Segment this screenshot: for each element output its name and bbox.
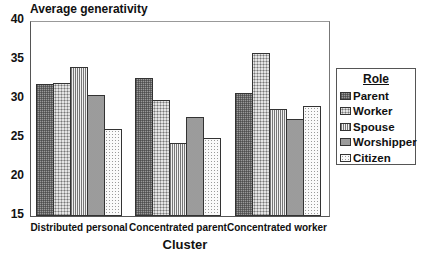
legend-label: Parent — [353, 90, 389, 102]
x-label-concentrated-parent: Concentrated parent — [123, 222, 233, 233]
legend-item-spouse: Spouse — [337, 119, 415, 135]
legend-item-worshipper: Worshipper — [337, 135, 415, 151]
bar-worshipper-concentrated-parent — [186, 117, 204, 216]
bar-citizen-concentrated-parent — [203, 138, 221, 216]
legend-label: Worshipper — [353, 136, 417, 148]
bar-worker-concentrated-parent — [152, 100, 170, 216]
spouse-swatch-icon — [340, 123, 351, 131]
y-tick-40: 40 — [0, 12, 24, 26]
y-tick-35: 35 — [0, 51, 24, 65]
worker-swatch-icon — [340, 107, 351, 115]
x-label-concentrated-worker: Concentrated worker — [222, 222, 332, 233]
chart-title: Average generativity — [30, 2, 148, 16]
citizen-swatch-icon — [340, 154, 351, 162]
legend-label: Spouse — [353, 121, 395, 133]
y-tick-25: 25 — [0, 129, 24, 143]
legend-item-citizen: Citizen — [337, 150, 415, 166]
legend-title: Role — [337, 72, 415, 88]
worshipper-swatch-icon — [340, 138, 351, 146]
legend-label: Citizen — [353, 152, 391, 164]
bar-parent-concentrated-worker — [235, 93, 253, 216]
x-label-distributed-personal: Distributed personal — [24, 222, 134, 233]
legend: Role Parent Worker Spouse Worshipper Cit… — [336, 68, 416, 165]
legend-label: Worker — [353, 105, 392, 117]
x-axis-title: Cluster — [155, 237, 215, 252]
y-tick-30: 30 — [0, 90, 24, 104]
bar-worker-distributed-personal — [53, 83, 71, 216]
bar-worker-concentrated-worker — [252, 53, 270, 216]
bar-citizen-concentrated-worker — [303, 106, 321, 216]
bar-spouse-concentrated-worker — [269, 109, 287, 216]
bar-worshipper-distributed-personal — [87, 95, 105, 216]
bar-spouse-distributed-personal — [70, 67, 88, 216]
legend-item-worker: Worker — [337, 104, 415, 120]
bar-parent-distributed-personal — [36, 84, 54, 216]
y-tick-15: 15 — [0, 207, 24, 221]
y-tick-20: 20 — [0, 168, 24, 182]
bar-parent-concentrated-parent — [135, 78, 153, 216]
parent-swatch-icon — [340, 92, 351, 100]
plot-area — [30, 21, 330, 217]
legend-item-parent: Parent — [337, 88, 415, 104]
bar-worshipper-concentrated-worker — [286, 119, 304, 216]
bar-citizen-distributed-personal — [104, 129, 122, 216]
bar-spouse-concentrated-parent — [169, 143, 187, 216]
